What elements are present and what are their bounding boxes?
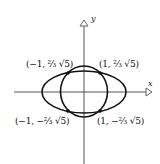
point-label-bottom-right: (1, −⅔ √5) (97, 116, 144, 126)
intersection-dot-top-right (98, 71, 102, 75)
diagram-canvas (0, 0, 160, 164)
intersecting-curves-diagram: y x (−1, ⅔ √5) (1, ⅔ √5) (−1, −⅔ √5) (1,… (0, 0, 160, 164)
point-label-top-left: (−1, ⅔ √5) (26, 59, 73, 69)
x-axis-label: x (148, 80, 153, 88)
x-axis-arrow-icon (146, 88, 152, 96)
point-label-bottom-left: (−1, −⅔ √5) (15, 116, 69, 126)
y-axis-label: y (91, 15, 96, 23)
intersection-dot-bottom-left (66, 109, 70, 113)
y-axis-arrow-icon (80, 20, 88, 26)
intersection-dot-top-left (66, 71, 70, 75)
point-label-top-right: (1, ⅔ √5) (99, 59, 139, 69)
intersection-dot-bottom-right (98, 109, 102, 113)
